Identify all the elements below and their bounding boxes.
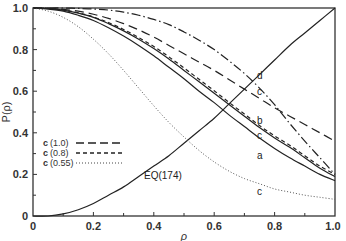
curve-label-d: d xyxy=(257,70,263,81)
legend-c3-param: (0.55) xyxy=(50,158,74,168)
curves xyxy=(33,8,335,216)
curve-d xyxy=(33,8,335,174)
x-tick-0.6: 0.6 xyxy=(207,220,222,232)
eq174-label: EQ(174) xyxy=(144,170,182,181)
legend-item-c-1.0: c (1.0) xyxy=(43,138,122,148)
legend-c1-param: (1.0) xyxy=(50,138,69,148)
y-tick-1.0: 1.0 xyxy=(13,2,28,14)
x-tick-0: 0 xyxy=(30,220,36,232)
x-axis-label: ρ xyxy=(180,230,187,241)
legend-c2-param: (0.8) xyxy=(50,148,69,158)
legend: c (1.0) c (0.8) c (0.55) xyxy=(43,138,122,168)
curve-label-b: b xyxy=(257,115,263,126)
y-tick-0: 0 xyxy=(22,210,28,222)
y-tick-0.4: 0.4 xyxy=(13,127,29,139)
probability-chart: 0 0.2 0.4 0.6 0.8 1.0 0 0.2 0.4 0.6 0.8 … xyxy=(0,0,346,241)
y-tick-0.6: 0.6 xyxy=(13,85,28,97)
legend-c2-letter: c xyxy=(43,148,48,158)
curve-c-1.0- xyxy=(33,8,335,141)
x-tick-0.8: 0.8 xyxy=(267,220,282,232)
curve-a xyxy=(33,8,335,181)
x-tick-0.2: 0.2 xyxy=(86,220,101,232)
curve-label-c-upper: c xyxy=(257,86,262,97)
plot-frame xyxy=(33,8,335,216)
y-axis-label: P(ρ) xyxy=(0,102,12,123)
legend-c3-letter: c xyxy=(43,158,48,168)
y-tick-0.2: 0.2 xyxy=(13,168,28,180)
legend-c1-letter: c xyxy=(43,138,48,148)
curve-b xyxy=(33,8,335,176)
curve-eq-174- xyxy=(33,8,335,216)
curve-label-c-low: c xyxy=(257,186,262,197)
y-tick-0.8: 0.8 xyxy=(13,44,28,56)
curve-label-a: a xyxy=(257,150,263,161)
curve-c-0.8- xyxy=(33,8,335,174)
x-tick-0.4: 0.4 xyxy=(146,220,162,232)
x-tick-1.0: 1.0 xyxy=(325,220,340,232)
curve-c-0.55- xyxy=(33,8,335,199)
legend-item-c-0.55: c (0.55) xyxy=(43,158,122,168)
legend-item-c-0.8: c (0.8) xyxy=(43,148,122,158)
curve-label-c-mid: c xyxy=(257,130,262,141)
